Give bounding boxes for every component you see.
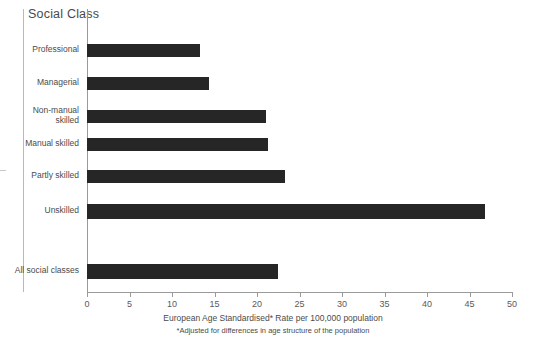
bar [87, 204, 485, 219]
x-axis-title: European Age Standardised* Rate per 100,… [0, 313, 546, 323]
x-tick [342, 292, 343, 297]
x-tick-label: 45 [464, 299, 474, 309]
category-label: Managerial [0, 77, 79, 87]
x-tick [427, 292, 428, 297]
category-label: Unskilled [0, 205, 79, 215]
x-tick [130, 292, 131, 297]
category-label: Partly skilled [0, 170, 79, 180]
x-tick-label: 5 [127, 299, 132, 309]
bar [87, 110, 266, 123]
x-tick [470, 292, 471, 297]
category-label: Non-manual skilled [0, 105, 79, 125]
x-tick [87, 292, 88, 297]
plot-area: ProfessionalManagerialNon-manual skilled… [87, 9, 512, 292]
x-tick-label: 30 [337, 299, 347, 309]
x-tick-label: 15 [209, 299, 219, 309]
x-tick-label: 40 [422, 299, 432, 309]
x-tick [215, 292, 216, 297]
x-axis-footnote: *Adjusted for differences in age structu… [0, 326, 546, 335]
x-tick [300, 292, 301, 297]
chart-page: Social Class ProfessionalManagerialNon-m… [0, 0, 546, 342]
bar [87, 44, 200, 57]
x-tick-label: 25 [294, 299, 304, 309]
x-tick [385, 292, 386, 297]
x-tick-label: 20 [252, 299, 262, 309]
x-tick-label: 0 [84, 299, 89, 309]
x-tick [172, 292, 173, 297]
x-tick [257, 292, 258, 297]
x-tick-label: 35 [379, 299, 389, 309]
bar [87, 138, 268, 151]
x-tick-label: 10 [167, 299, 177, 309]
x-tick [512, 292, 513, 297]
bar [87, 264, 278, 279]
bar [87, 77, 209, 90]
category-label: Professional [0, 44, 79, 54]
category-label: All social classes [0, 265, 79, 275]
category-label: Manual skilled [0, 138, 79, 148]
x-tick-label: 50 [507, 299, 517, 309]
bar [87, 170, 285, 183]
